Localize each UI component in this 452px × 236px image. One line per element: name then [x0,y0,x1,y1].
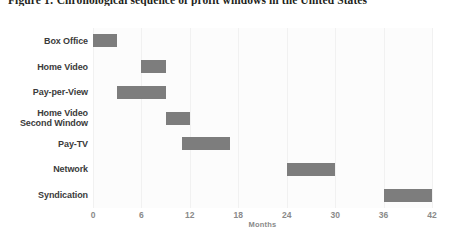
category-label-line: Pay-per-View [0,87,88,97]
x-tick-label-0: 0 [91,210,96,220]
category-label-line: Second Window [0,118,88,128]
category-label-line: Home Video [0,108,88,118]
x-axis-title: Months [93,220,432,229]
gridline-6 [141,28,142,208]
gridline-0 [93,28,94,208]
category-axis-labels: Box OfficeHome VideoPay-per-ViewHome Vid… [0,28,88,208]
category-label-line: Network [0,164,88,174]
bar-syndication[interactable] [384,189,432,202]
chart-area: Box OfficeHome VideoPay-per-ViewHome Vid… [0,22,452,236]
category-label-line: Syndication [0,190,88,200]
x-tick-label-36: 36 [379,210,388,220]
category-label-line: Box Office [0,36,88,46]
category-label-line: Pay-TV [0,139,88,149]
category-label-network: Network [0,164,88,174]
bar-pay-tv[interactable] [182,137,230,150]
x-tick-label-18: 18 [234,210,243,220]
x-tick-label-24: 24 [282,210,291,220]
bar-pay-per-view[interactable] [117,86,165,99]
gridline-42 [432,28,433,208]
gridline-18 [238,28,239,208]
category-label-home-video-second-window: Home VideoSecond Window [0,108,88,128]
category-label-box-office: Box Office [0,36,88,46]
x-tick-label-12: 12 [185,210,194,220]
gridline-30 [335,28,336,208]
x-tick-label-30: 30 [330,210,339,220]
plot-panel [93,28,432,208]
x-tick-label-6: 6 [139,210,144,220]
bar-network[interactable] [287,163,335,176]
category-label-home-video: Home Video [0,62,88,72]
gridline-24 [287,28,288,208]
category-label-syndication: Syndication [0,190,88,200]
category-label-line: Home Video [0,62,88,72]
gridline-36 [384,28,385,208]
bar-box-office[interactable] [93,34,117,47]
figure-title: Figure 1: Chronological sequence of prof… [8,0,444,6]
gridline-12 [190,28,191,208]
x-tick-label-42: 42 [427,210,436,220]
bar-home-video-second-window[interactable] [166,112,190,125]
category-label-pay-tv: Pay-TV [0,139,88,149]
category-label-pay-per-view: Pay-per-View [0,87,88,97]
bar-home-video[interactable] [141,60,165,73]
